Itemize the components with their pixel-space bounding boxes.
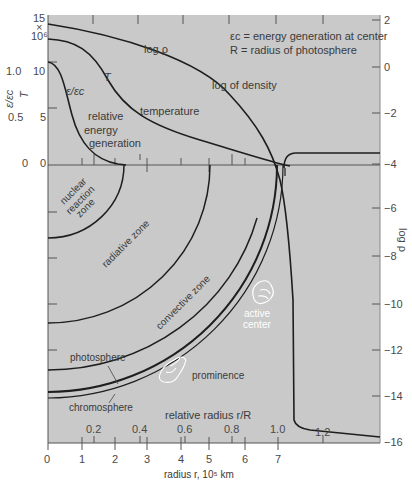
energy-label: energy	[84, 124, 118, 136]
t-axis-label: T	[18, 90, 30, 98]
rr-tick: 1.0	[270, 423, 285, 435]
rr-tick: 0.2	[86, 423, 101, 435]
r-tick: 1	[79, 453, 85, 465]
log-of-density-label: log of density	[212, 79, 277, 91]
rho-tick: −8	[384, 250, 397, 262]
eps-tick-05: 0.5	[8, 111, 23, 123]
rho-tick: 2	[384, 14, 390, 26]
rho-tick: −12	[384, 344, 403, 356]
bottom-axis-labels: 0 1 2 3 4 5 6 7	[44, 453, 281, 465]
eps-tick-0: 0	[22, 157, 28, 169]
r-tick: 6	[242, 453, 248, 465]
relative-label: relative	[88, 110, 123, 122]
rho-tick: −6	[384, 202, 397, 214]
rr-tick: 0.4	[132, 423, 147, 435]
rr-tick: 0.6	[177, 423, 192, 435]
temperature-label: temperature	[140, 105, 199, 117]
r-tick: 3	[144, 453, 150, 465]
eps-axis-label: ε/εc	[3, 89, 15, 108]
rho-tick: −2	[384, 107, 397, 119]
t-tick-0: 0	[40, 157, 46, 169]
t-tick-10: 10	[33, 65, 45, 77]
r-tick: 5	[206, 453, 212, 465]
photosphere-label: photosphere	[70, 352, 126, 363]
eps-curve-label: ε/εc	[66, 85, 85, 97]
t-multiplier-10-6: 10⁶	[31, 30, 48, 42]
legend-line-1: εc = energy generation at center	[230, 30, 388, 42]
rho-tick: −16	[384, 436, 403, 448]
r-tick: 2	[112, 453, 118, 465]
r-tick: 4	[178, 453, 184, 465]
rho-tick: −14	[384, 390, 403, 402]
rho-tick: −4	[384, 158, 397, 170]
rr-tick: 1.2	[315, 426, 330, 438]
r-tick: 0	[44, 453, 50, 465]
legend-line-2: R = radius of photosphere	[230, 44, 357, 56]
center-label: center	[243, 319, 271, 330]
sun-structure-diagram: 15 × 10⁶ 10 5 0 1.0 0.5 0 ε/εc T 2 0 −2 …	[0, 0, 412, 490]
relative-axis-label: relative radius r/R	[165, 409, 251, 421]
chromosphere-label: chromosphere	[69, 402, 133, 413]
t-tick-5: 5	[40, 111, 46, 123]
log-rho-label: log ρ	[144, 43, 168, 55]
bottom-axis-label: radius r, 10⁵ km	[164, 469, 234, 480]
generation-label: generation	[89, 137, 141, 149]
rho-tick: −10	[384, 298, 403, 310]
rho-tick: 0	[384, 61, 390, 73]
right-axis-label: log ρ	[397, 228, 409, 252]
active-label: active	[244, 308, 271, 319]
prominence-label: prominence	[192, 370, 245, 381]
eps-tick-1: 1.0	[6, 65, 21, 77]
r-tick: 7	[275, 453, 281, 465]
rr-tick: 0.8	[224, 423, 239, 435]
